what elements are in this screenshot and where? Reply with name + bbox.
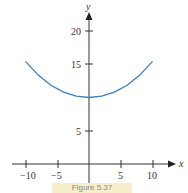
y-ticks: 5 20 15 (71, 26, 93, 137)
x-tick-label: −10 (20, 170, 36, 181)
y-tick-label: 5 (76, 126, 81, 137)
y-tick-label: 15 (71, 59, 81, 70)
y-tick-label: 20 (71, 26, 81, 37)
figure-caption: Figure 5.37 (52, 183, 132, 193)
y-axis-label: y (85, 1, 91, 12)
x-tick-label: 5 (118, 170, 123, 181)
x-axis-arrow-icon (168, 161, 176, 168)
chart: x y −10 −5 5 10 5 20 15 (0, 0, 188, 193)
x-tick-label: 10 (147, 170, 157, 181)
x-tick-label: −5 (51, 170, 62, 181)
x-axis-label: x (178, 158, 184, 169)
y-axis-arrow-icon (86, 12, 93, 20)
